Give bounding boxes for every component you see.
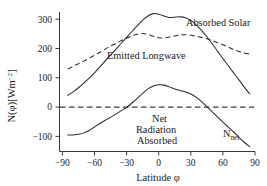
emitted-longwave-label: Emitted Longwave <box>107 50 186 61</box>
x-tick-labels: −90 −60 −30 0 30 60 90 <box>55 158 260 168</box>
x-axis-ticks <box>62 152 255 156</box>
absorbed-solar-label: Absorbed Solar <box>186 17 251 28</box>
y-tick-label-neg100: −100 <box>32 132 52 142</box>
nnet-symbol-subscript: net <box>230 134 239 142</box>
y-tick-label-0: 0 <box>47 102 52 112</box>
x-tick-label-60: 60 <box>218 158 228 168</box>
net-radiation-label-line3: Absorbed <box>137 135 178 146</box>
y-axis-label: N(φ)[Wm−2] <box>6 70 18 123</box>
y-tick-label-300: 300 <box>38 15 53 25</box>
radiation-balance-chart: N(φ)[Wm−2] 300 200 100 0 −100 <box>0 0 267 186</box>
x-tick-label-0: 0 <box>156 158 161 168</box>
x-tick-label-90: 90 <box>250 158 260 168</box>
x-axis-label: Latitude φ <box>136 172 180 183</box>
chart-canvas: N(φ)[Wm−2] 300 200 100 0 −100 <box>0 0 267 186</box>
x-tick-label-neg30: −30 <box>119 158 134 168</box>
y-axis-ticks <box>56 19 60 136</box>
x-tick-label-30: 30 <box>186 158 196 168</box>
y-axis-label-close: ] <box>6 70 17 74</box>
y-axis-label-base: N(φ)[Wm <box>6 80 18 122</box>
x-tick-label-neg90: −90 <box>55 158 70 168</box>
net-radiation-label-line1: Net <box>152 113 167 124</box>
y-tick-label-100: 100 <box>38 73 53 83</box>
net-radiation-label-line2: Radiation <box>136 124 176 135</box>
y-tick-labels: 300 200 100 0 −100 <box>32 15 52 142</box>
y-tick-label-200: 200 <box>38 44 53 54</box>
svg-text:N(φ)[Wm−2]: N(φ)[Wm−2] <box>6 70 18 123</box>
x-tick-label-neg60: −60 <box>87 158 102 168</box>
